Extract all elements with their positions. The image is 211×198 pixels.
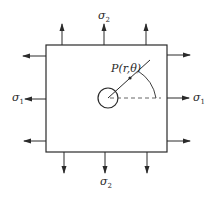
sigma1-left-label: σ1	[12, 91, 24, 106]
stress-diagram: P(r,θ) σ2 σ2 σ1 σ1	[0, 0, 211, 198]
theta-angle-arc	[138, 71, 156, 98]
right-stress-arrows	[167, 55, 190, 141]
bottom-stress-arrows	[64, 152, 147, 173]
left-stress-arrows	[23, 56, 46, 141]
sigma1-right-label: σ1	[193, 91, 205, 106]
top-stress-arrows	[62, 24, 146, 45]
point-label: P(r,θ)	[110, 62, 141, 75]
point-p-marker	[128, 76, 131, 79]
sigma2-top-label: σ2	[98, 9, 110, 24]
sigma2-bottom-label: σ2	[100, 175, 112, 190]
